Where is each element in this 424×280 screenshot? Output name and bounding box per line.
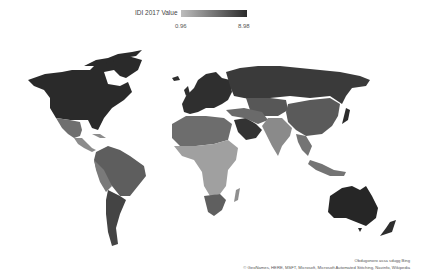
map-credit-line-2: © GeoNames, HERE, MSFT, Microsoft, Micro…	[243, 265, 410, 270]
region-china[interactable]	[286, 98, 340, 136]
region-japan[interactable]	[342, 108, 350, 124]
region-south-america-south[interactable]	[106, 190, 126, 246]
region-caribbean[interactable]	[92, 134, 106, 138]
region-north-america[interactable]	[28, 56, 142, 130]
region-southern-africa[interactable]	[204, 194, 226, 216]
region-mexico[interactable]	[56, 118, 82, 138]
region-iceland[interactable]	[172, 76, 180, 81]
region-new-zealand[interactable]	[380, 220, 396, 236]
map-credit-line-1: Obdugonoro assa sdugg Bing	[355, 258, 410, 263]
region-indonesia[interactable]	[308, 160, 346, 176]
region-india[interactable]	[262, 118, 292, 156]
region-sub-saharan-africa[interactable]	[174, 140, 238, 196]
region-madagascar[interactable]	[234, 188, 240, 202]
region-southeast-asia[interactable]	[296, 134, 312, 156]
world-choropleth-map	[0, 0, 424, 280]
region-tasmania[interactable]	[358, 228, 362, 232]
region-central-america[interactable]	[74, 138, 96, 152]
region-australia[interactable]	[328, 186, 378, 226]
